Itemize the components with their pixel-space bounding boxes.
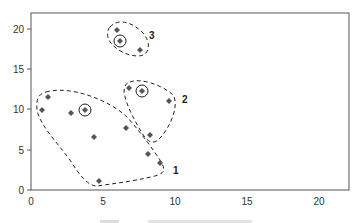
figure-caption-clipped: [100, 216, 260, 223]
data-points: [39, 27, 172, 184]
point-marker: [68, 110, 74, 116]
x-tick-label: 20: [313, 196, 325, 207]
point-marker: [166, 98, 172, 104]
cluster-label-2: 2: [182, 94, 188, 105]
point-marker: [91, 134, 97, 140]
x-tick-label: 5: [100, 196, 106, 207]
centroid-rings: [79, 35, 148, 116]
y-tick-label: 15: [13, 64, 25, 75]
scatter-chart: 0 5 10 15 20 0 5 10 15 20: [0, 0, 360, 223]
cluster-3-outline: [108, 22, 149, 56]
point-marker: [82, 107, 88, 113]
y-axis: 0 5 10 15 20: [13, 24, 31, 196]
y-tick-label: 20: [13, 24, 25, 35]
y-tick-label: 10: [13, 104, 25, 115]
x-tick-label: 0: [28, 196, 34, 207]
point-marker: [114, 27, 120, 33]
point-marker: [96, 178, 102, 184]
y-tick-label: 5: [18, 145, 24, 156]
cluster-label-3: 3: [149, 30, 155, 41]
cluster-label-1: 1: [173, 165, 179, 176]
point-marker: [126, 85, 132, 91]
plot-frame: [31, 13, 349, 190]
cluster-outlines: [37, 22, 175, 186]
point-marker: [137, 47, 143, 53]
x-axis: 0 5 10 15 20: [28, 196, 325, 207]
point-marker: [157, 160, 163, 166]
point-marker: [117, 38, 123, 44]
x-tick-label: 10: [169, 196, 181, 207]
point-marker: [39, 107, 45, 113]
y-tick-label: 0: [18, 185, 24, 196]
point-marker: [45, 94, 51, 100]
x-tick-label: 15: [241, 196, 253, 207]
cluster-1-outline: [37, 90, 164, 186]
point-marker: [139, 88, 145, 94]
point-marker: [123, 125, 129, 131]
point-marker: [147, 132, 153, 138]
point-marker: [145, 151, 151, 157]
